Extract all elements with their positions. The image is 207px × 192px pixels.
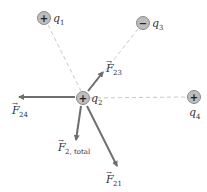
charge-q3: − q 3 — [137, 17, 164, 33]
svg-text:q: q — [53, 12, 60, 25]
charge-q1: + q 1 — [38, 12, 65, 28]
svg-text:24: 24 — [19, 111, 28, 119]
svg-text:q: q — [189, 106, 196, 119]
minus-sign-icon: − — [139, 18, 147, 29]
svg-text:23: 23 — [113, 69, 122, 77]
force-arrow-f21 — [87, 106, 117, 166]
plus-sign-icon: + — [79, 93, 87, 104]
svg-text:21: 21 — [113, 180, 122, 188]
label-f24: → F 24 — [11, 100, 28, 119]
label-f23: → F 23 — [105, 58, 122, 77]
label-f21: → F 21 — [105, 169, 122, 188]
svg-text:q: q — [91, 92, 98, 105]
charge-q4: + q 4 — [188, 91, 202, 122]
force-arrow-f2-total — [76, 106, 81, 140]
dashed-line-q1-q2 — [48, 25, 81, 91]
label-f2-total: → F 2, total — [57, 137, 91, 156]
svg-text:3: 3 — [159, 24, 163, 32]
svg-text:2: 2 — [98, 99, 102, 107]
svg-text:2, total: 2, total — [65, 148, 91, 156]
plus-sign-icon: + — [190, 92, 198, 103]
svg-text:1: 1 — [60, 19, 64, 27]
plus-sign-icon: + — [40, 13, 48, 24]
svg-text:4: 4 — [196, 113, 201, 121]
charge-q2: + q 2 — [77, 92, 103, 108]
force-arrow-f23 — [88, 72, 103, 91]
force-diagram: + q 1 − q 3 + q 2 + q 4 → F 23 → F 24 → … — [0, 0, 207, 192]
dashed-line-q2-q4 — [90, 97, 187, 98]
svg-text:q: q — [152, 17, 159, 30]
